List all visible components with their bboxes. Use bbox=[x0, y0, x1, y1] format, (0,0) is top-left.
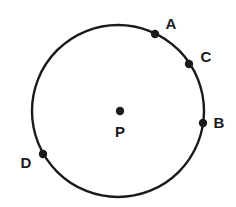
point-a bbox=[151, 30, 159, 38]
label-b: B bbox=[214, 114, 225, 131]
point-b bbox=[199, 119, 207, 127]
point-c bbox=[185, 60, 193, 68]
center-point-p bbox=[116, 107, 124, 115]
label-p: P bbox=[115, 123, 125, 140]
label-a: A bbox=[166, 15, 177, 32]
label-c: C bbox=[201, 48, 212, 65]
circle-diagram: P A C B D bbox=[0, 0, 236, 207]
label-d: D bbox=[21, 154, 32, 171]
point-d bbox=[39, 150, 47, 158]
